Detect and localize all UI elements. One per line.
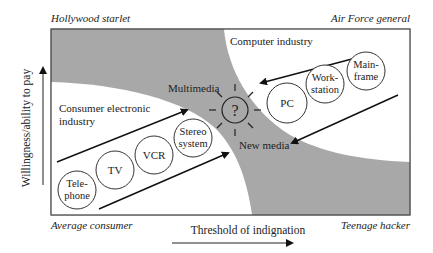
svg-text:PC: PC	[280, 97, 293, 109]
corner-bottom-right: Teenage hacker	[341, 219, 411, 231]
svg-text:TV: TV	[108, 164, 123, 176]
new-media-label: New media	[239, 139, 290, 151]
item-pc: PC	[267, 83, 307, 123]
item-tv: TV	[96, 151, 134, 189]
svg-text:VCR: VCR	[143, 149, 166, 161]
item-vcr: VCR	[135, 136, 173, 174]
item-stereo-system: Stereo system	[174, 119, 212, 157]
corner-top-right: Air Force general	[330, 12, 410, 24]
computer-industry-label: Computer industry	[230, 35, 313, 47]
y-axis-label: Willingness/ability to pay	[20, 69, 33, 188]
svg-text:station: station	[311, 84, 340, 95]
svg-text:Stereo: Stereo	[180, 126, 207, 137]
item-telephone: Tele- phone	[58, 171, 96, 209]
svg-text:frame: frame	[354, 71, 379, 82]
consumer-industry-label: Consumer electronic	[59, 102, 150, 114]
item-workstation: Work- station	[306, 65, 344, 103]
svg-text:phone: phone	[64, 190, 90, 201]
multimedia-label: Multimedia	[168, 82, 219, 94]
question-mark: ?	[231, 102, 238, 119]
item-mainframe: Main- frame	[347, 52, 385, 90]
convergence-diagram: Hollywood starlet Air Force general Aver…	[0, 0, 433, 253]
svg-text:Work-: Work-	[312, 72, 339, 83]
corner-bottom-left: Average consumer	[50, 219, 133, 231]
svg-text:system: system	[178, 138, 207, 149]
svg-text:Tele-: Tele-	[66, 178, 88, 189]
x-axis-label: Threshold of indignation	[191, 224, 306, 237]
corner-top-left: Hollywood starlet	[50, 12, 131, 24]
consumer-industry-label-2: industry	[59, 115, 96, 127]
svg-text:Main-: Main-	[353, 59, 379, 70]
